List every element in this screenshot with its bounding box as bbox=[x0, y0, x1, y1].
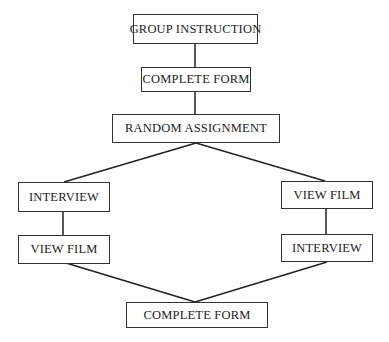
node-left-interview: INTERVIEW bbox=[18, 182, 110, 212]
edge-left-viewfilm-to-form bbox=[66, 263, 195, 302]
node-label: VIEW FILM bbox=[293, 188, 360, 203]
connector-lines bbox=[0, 0, 389, 342]
node-complete-form-2: COMPLETE FORM bbox=[126, 302, 268, 328]
edge-random-to-left-interview bbox=[64, 143, 196, 182]
node-right-view-film: VIEW FILM bbox=[281, 181, 373, 209]
node-label: INTERVIEW bbox=[29, 190, 99, 205]
node-label: RANDOM ASSIGNMENT bbox=[125, 121, 267, 136]
edge-random-to-right-viewfilm bbox=[196, 143, 325, 181]
node-label: COMPLETE FORM bbox=[143, 308, 250, 323]
edge-right-interview-to-form bbox=[195, 262, 327, 302]
node-label: COMPLETE FORM bbox=[142, 72, 249, 87]
node-right-interview: INTERVIEW bbox=[281, 234, 373, 262]
node-random-assignment: RANDOM ASSIGNMENT bbox=[112, 114, 280, 143]
node-label: VIEW FILM bbox=[30, 242, 97, 257]
node-left-view-film: VIEW FILM bbox=[18, 235, 110, 264]
node-group-instruction: GROUP INSTRUCTION bbox=[133, 14, 258, 44]
node-complete-form-1: COMPLETE FORM bbox=[141, 67, 251, 92]
node-label: GROUP INSTRUCTION bbox=[130, 22, 262, 37]
node-label: INTERVIEW bbox=[292, 241, 362, 256]
